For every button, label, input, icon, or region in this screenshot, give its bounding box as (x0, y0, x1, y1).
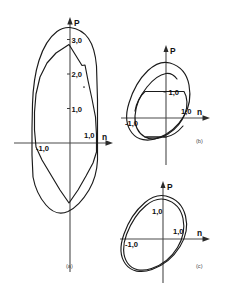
panel-a-inner-curve (35, 45, 97, 204)
panel-a-dot-annotation (83, 86, 85, 88)
panel-c: P n 1,0 -1,0 1,0 (c) (120, 181, 210, 283)
panel-a-caption: (a) (66, 263, 73, 269)
panel-a-p-axis-arrowhead (67, 17, 72, 25)
panel-a-ytick-label-2: 2,0 (72, 70, 83, 79)
panel-b-inner-curve (135, 73, 187, 138)
panel-b-caption: (b) (196, 138, 203, 144)
panel-c-ytick-label-1: 1,0 (152, 207, 163, 216)
panel-c-xtick-label-pos1: 1,0 (173, 227, 184, 236)
panel-a-ytick-label-1: 1,0 (72, 105, 83, 114)
panel-c-p-axis-arrowhead (161, 181, 166, 188)
figure-container: P n 3,0 2,0 1,0 -1,0 1,0 (a) (0, 0, 229, 295)
panel-c-p-axis-label: P (167, 182, 173, 192)
diagram-svg: P n 3,0 2,0 1,0 -1,0 1,0 (a) (0, 0, 229, 295)
panel-b-n-axis-arrowhead (203, 115, 211, 120)
panel-b: P n 1,0 -1,0 1,0 (b) (121, 45, 210, 165)
panel-a-p-axis-label: P (74, 18, 80, 28)
panel-a-outer-curve (32, 27, 98, 213)
panel-b-inner-curve-top-flat (135, 92, 166, 112)
panel-b-ytick-label-1: 1,0 (169, 88, 180, 97)
panel-a-n-axis-label: n (102, 132, 107, 142)
panel-a-xtick-label-neg1: -1,0 (36, 144, 49, 153)
panel-b-xtick-label-pos1: 1,0 (181, 107, 192, 116)
panel-b-xtick-label-neg1: -1,0 (125, 119, 138, 128)
panel-c-n-axis-arrowhead (203, 236, 211, 241)
panel-a: P n 3,0 2,0 1,0 -1,0 1,0 (a) (14, 17, 113, 272)
panel-b-p-axis-arrowhead (164, 45, 169, 52)
panel-a-ytick-label-3: 3,0 (72, 36, 83, 45)
panel-c-caption: (c) (196, 263, 203, 269)
panel-b-p-axis-label: P (170, 46, 176, 56)
panel-b-n-axis-label: n (197, 107, 202, 117)
panel-c-n-axis-label: n (197, 228, 202, 238)
panel-c-xtick-label-neg1: -1,0 (125, 240, 138, 249)
panel-a-xtick-label-pos1: 1,0 (84, 131, 95, 140)
